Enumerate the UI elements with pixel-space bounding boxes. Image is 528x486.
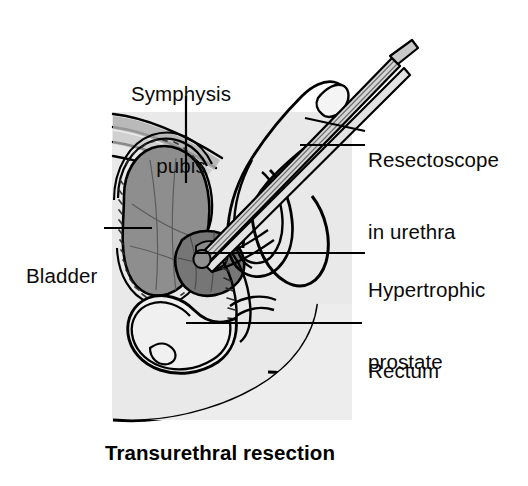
label-symphysis-pubis-line1: Symphysis <box>108 82 254 106</box>
label-resectoscope-line1: Resectoscope <box>368 148 499 172</box>
transurethral-resection-figure: Symphysis pubis Resectoscope in urethra … <box>0 0 528 486</box>
label-hypertrophic-prostate-line1: Hypertrophic <box>368 278 485 302</box>
label-rectum: Rectum <box>368 311 439 431</box>
label-rectum-line1: Rectum <box>368 359 439 383</box>
label-symphysis-pubis-line2: pubis <box>108 154 254 178</box>
figure-caption: Transurethral resection <box>0 441 440 465</box>
label-symphysis-pubis: Symphysis pubis <box>108 34 254 226</box>
label-bladder-line1: Bladder <box>26 264 97 288</box>
label-bladder: Bladder <box>26 216 97 336</box>
